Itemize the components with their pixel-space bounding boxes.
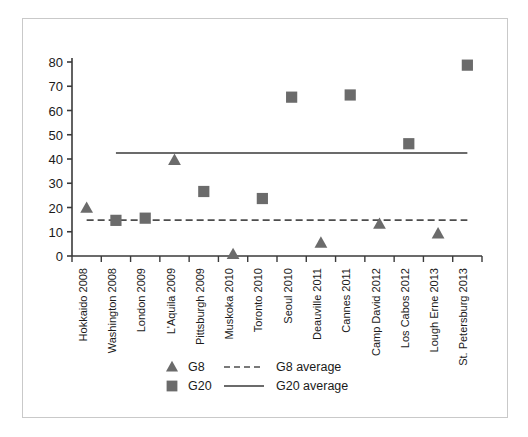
- x-axis-category-label: Cannes 2011: [340, 268, 352, 333]
- scatter-plot: 01020304050607080Hokkaido 2008Washington…: [0, 0, 528, 437]
- x-axis-category-label: London 2009: [135, 268, 147, 332]
- x-axis-category-label: Lough Erne 2013: [428, 268, 440, 352]
- y-axis-tick-label: 60: [49, 104, 63, 119]
- data-point-g20: [286, 92, 297, 103]
- data-point-g8: [315, 236, 328, 247]
- data-point-g8: [168, 154, 181, 165]
- x-axis-category-label: Seoul 2010: [282, 268, 294, 324]
- x-axis-category-label: St. Petersburg 2013: [457, 268, 469, 366]
- x-axis-category-label: Camp David 2012: [370, 268, 382, 356]
- legend-g20-label: G20: [188, 379, 212, 393]
- y-axis-tick-label: 10: [49, 225, 63, 240]
- data-point-g8: [373, 217, 386, 228]
- y-axis-tick-label: 0: [56, 249, 63, 264]
- legend-marker-square: [167, 381, 178, 392]
- data-point-g20: [345, 89, 356, 100]
- chart-figure: 01020304050607080Hokkaido 2008Washington…: [0, 0, 528, 437]
- legend-g8-label: G8: [188, 360, 205, 374]
- data-point-g20: [198, 186, 209, 197]
- data-point-g20: [403, 138, 414, 149]
- x-axis-category-label: Hokkaido 2008: [77, 268, 89, 341]
- data-point-g20: [140, 213, 151, 224]
- y-axis-tick-label: 70: [49, 79, 63, 94]
- data-point-g8: [432, 227, 445, 238]
- data-point-g20: [110, 215, 121, 226]
- x-axis-category-label: Toronto 2010: [252, 268, 264, 332]
- x-axis-category-label: L'Aquila 2009: [165, 268, 177, 334]
- y-axis-tick-label: 20: [49, 201, 63, 216]
- y-axis-tick-label: 80: [49, 55, 63, 70]
- y-axis-tick-label: 50: [49, 128, 63, 143]
- x-axis-category-label: Los Cabos 2012: [399, 268, 411, 348]
- x-axis-category-label: Pittsburgh 2009: [194, 268, 206, 345]
- legend-marker-triangle: [166, 361, 178, 372]
- x-axis-category-label: Muskoka 2010: [223, 268, 235, 340]
- x-axis-category-label: Deauville 2011: [311, 268, 323, 340]
- y-axis-tick-label: 30: [49, 176, 63, 191]
- legend-g20-average-label: G20 average: [276, 379, 348, 393]
- legend-g8-average-label: G8 average: [276, 360, 341, 374]
- x-axis-category-label: Washington 2008: [106, 268, 118, 353]
- data-point-g8: [80, 201, 93, 212]
- data-point-g8: [227, 248, 240, 259]
- data-point-g20: [257, 193, 268, 204]
- y-axis-tick-label: 40: [49, 152, 63, 167]
- data-point-g20: [462, 60, 473, 71]
